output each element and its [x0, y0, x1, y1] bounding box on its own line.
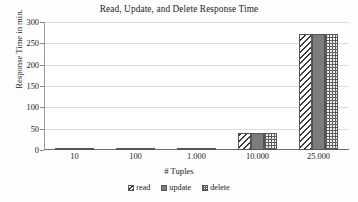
bar-update: [251, 133, 264, 150]
legend-label: update: [169, 183, 191, 192]
y-axis-tick-label: 200: [11, 60, 39, 69]
chart-legend: readupdatedelete: [0, 183, 358, 192]
y-axis-tick-label: 100: [11, 103, 39, 112]
bar-update: [68, 148, 81, 150]
x-axis-tick-label: 1.000: [166, 152, 227, 161]
x-axis-tick-label: 100: [105, 152, 166, 161]
bar-delete: [142, 148, 155, 150]
y-axis-tick-label: 300: [11, 18, 39, 27]
bar-delete: [203, 148, 216, 150]
bar-read: [177, 148, 190, 150]
legend-item-delete[interactable]: delete: [202, 183, 230, 192]
bar-group: [105, 22, 166, 150]
bar-read: [116, 148, 129, 150]
bar-delete: [264, 133, 277, 150]
bar-read: [55, 148, 68, 150]
x-axis-tick-label: 25.000: [288, 152, 349, 161]
legend-swatch-read-icon: [128, 185, 134, 191]
bar-group: [166, 22, 227, 150]
bar-update: [190, 148, 203, 150]
bar-series-area: [44, 22, 349, 150]
x-axis-tick-label: 10: [44, 152, 105, 161]
bar-read: [238, 133, 251, 150]
legend-label: read: [136, 183, 150, 192]
bar-update: [312, 34, 325, 150]
bar-update: [129, 148, 142, 150]
y-axis-tick-mark: [40, 150, 44, 151]
bar-group: [44, 22, 105, 150]
legend-swatch-update-icon: [161, 185, 167, 191]
chart-title: Read, Update, and Delete Response Time: [0, 4, 358, 14]
x-axis-tick-labels: 101001.00010.00025.000: [44, 152, 349, 161]
bar-read: [299, 34, 312, 150]
bar-group: [227, 22, 288, 150]
y-axis-title: Response Time in min.: [14, 0, 24, 109]
y-axis-tick-label: 0: [11, 146, 39, 155]
y-axis-tick-label: 50: [11, 124, 39, 133]
chart-container: Read, Update, and Delete Response Time R…: [0, 0, 358, 202]
legend-item-update[interactable]: update: [161, 183, 191, 192]
legend-swatch-delete-icon: [202, 185, 208, 191]
y-axis-tick-label: 150: [11, 82, 39, 91]
bar-delete: [325, 34, 338, 150]
x-axis-title: # Tuples: [0, 166, 358, 176]
y-axis-tick-label: 250: [11, 39, 39, 48]
bar-delete: [81, 148, 94, 150]
legend-label: delete: [210, 183, 230, 192]
x-axis-tick-label: 10.000: [227, 152, 288, 161]
legend-item-read[interactable]: read: [128, 183, 150, 192]
bar-group: [288, 22, 349, 150]
